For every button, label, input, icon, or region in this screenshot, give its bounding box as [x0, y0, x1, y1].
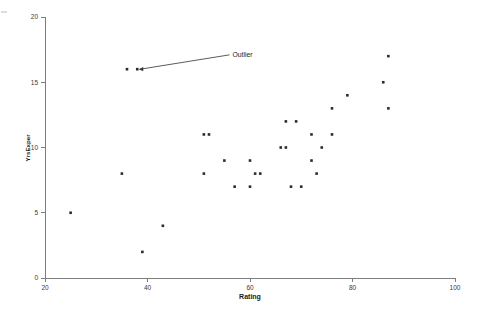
- data-point: [320, 146, 323, 149]
- data-point: [331, 107, 334, 110]
- data-point: [233, 185, 236, 188]
- data-point: [279, 146, 282, 149]
- data-point: [249, 159, 252, 162]
- data-points-group: [69, 55, 389, 253]
- data-point: [290, 185, 293, 188]
- y-axis-title: YrsExper: [24, 134, 31, 162]
- data-point: [310, 159, 313, 162]
- y-tick-label-5: 5: [34, 209, 38, 216]
- y-tick-label-15: 15: [31, 79, 39, 86]
- outlier-arrow-head: [139, 67, 144, 71]
- data-point: [295, 120, 298, 123]
- y-tick-label-20: 20: [31, 13, 39, 20]
- x-tick-label-40: 40: [144, 284, 152, 291]
- data-point: [249, 185, 252, 188]
- data-point: [254, 172, 257, 175]
- data-point: [387, 107, 390, 110]
- data-point: [203, 133, 206, 136]
- data-point: [285, 120, 288, 123]
- data-point: [141, 251, 144, 254]
- y-tick-label-0: 0: [34, 274, 38, 281]
- data-point: [121, 172, 124, 175]
- data-point: [223, 159, 226, 162]
- data-point: [300, 185, 303, 188]
- x-tick-label-80: 80: [349, 284, 357, 291]
- data-point: [382, 81, 385, 84]
- x-tick-label-20: 20: [41, 284, 49, 291]
- x-tick-label-100: 100: [450, 284, 461, 291]
- data-point: [69, 211, 72, 214]
- outlier-annotation-label: Outlier: [233, 51, 254, 58]
- data-point: [126, 68, 129, 71]
- outlier-leader-line: [140, 55, 229, 69]
- data-point: [203, 172, 206, 175]
- chart-canvas: 2040608010005101520 Outlier Rating YrsEx…: [0, 0, 485, 312]
- data-point: [346, 94, 349, 97]
- data-point: [387, 55, 390, 58]
- data-point: [331, 133, 334, 136]
- data-point: [310, 133, 313, 136]
- x-tick-label-60: 60: [246, 284, 254, 291]
- data-point: [285, 146, 288, 149]
- data-point: [136, 68, 139, 71]
- data-point: [259, 172, 262, 175]
- y-tick-label-10: 10: [31, 144, 39, 151]
- annotations-group: Outlier: [139, 51, 254, 71]
- data-point: [315, 172, 318, 175]
- x-axis-title: Rating: [239, 293, 261, 301]
- data-point: [208, 133, 211, 136]
- data-point: [162, 225, 165, 228]
- scatter-plot-figure: 2040608010005101520 Outlier Rating YrsEx…: [0, 0, 485, 312]
